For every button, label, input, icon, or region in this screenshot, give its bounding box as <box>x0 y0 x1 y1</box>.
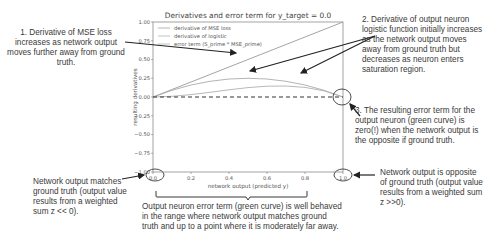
legend: derivative of MSE loss derivative of log… <box>158 25 262 48</box>
annotation-opposite-truth: Network output is opposite of ground tru… <box>380 168 485 208</box>
legend-mse: derivative of MSE loss <box>174 25 231 31</box>
annotation-mse: 1. Derivative of MSE loss increases as n… <box>6 28 126 68</box>
y-tick-label: 0.75 <box>138 38 150 44</box>
y-tick-label: 0.25 <box>138 75 150 81</box>
y-tick-label: −0.75 <box>134 150 150 156</box>
y-tick-label: 0.50 <box>138 56 150 62</box>
y-tick-label: −0.50 <box>134 131 150 137</box>
annotation-matches-truth: Network output matches ground truth (out… <box>33 177 128 217</box>
x-tick-label: 1.0 <box>339 175 347 181</box>
y-tick-label: 1.00 <box>138 19 150 25</box>
x-tick-label: 0.6 <box>263 175 271 181</box>
annotation-arrows <box>122 36 375 179</box>
legend-logistic: derivative of logistic <box>174 33 227 40</box>
annotation-logistic: 2. Derivative of output neuron logistic … <box>362 15 487 75</box>
x-tick-label: 0.2 <box>187 175 195 181</box>
x-tick-label: 0.4 <box>225 175 234 181</box>
y-axis-label: resulting derivatives <box>132 68 139 125</box>
x-axis-label: network output (predicted y) <box>208 183 289 190</box>
range-bracket <box>156 191 307 200</box>
y-tick-label: 0.00 <box>138 94 150 100</box>
x-axis: 0.00.20.40.60.81.0 network output (predi… <box>149 172 347 190</box>
legend-error-term: error term (S_prime * MSE_prime) <box>174 41 262 48</box>
y-axis: 1.000.750.500.250.00−0.25−0.50−0.75−1.00… <box>132 19 153 175</box>
annotation-zero-error: 3. The resulting error term for the outp… <box>355 106 485 146</box>
annotation-well-behaved: Output neuron error term (green curve) i… <box>142 202 342 232</box>
x-tick-label: 0.8 <box>301 175 309 181</box>
chart-title: Derivatives and error term for y_target … <box>165 11 332 20</box>
